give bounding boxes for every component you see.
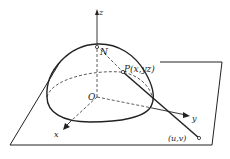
z-axis <box>95 9 99 97</box>
label-x: x <box>54 130 59 139</box>
label-uv: (u,v) <box>168 134 186 143</box>
y-axis <box>97 97 190 118</box>
label-z: z <box>98 8 104 17</box>
stereographic-projection-diagram: z N P(x,yz) O y x (u,v) <box>0 0 230 159</box>
projection-point <box>197 136 200 139</box>
projection-line <box>123 72 199 138</box>
label-y: y <box>191 114 197 123</box>
north-pole-point <box>95 45 98 48</box>
label-p: P(x,yz) <box>123 64 155 74</box>
plane <box>10 62 222 145</box>
label-n: N <box>99 47 109 57</box>
label-o: O <box>88 92 96 102</box>
